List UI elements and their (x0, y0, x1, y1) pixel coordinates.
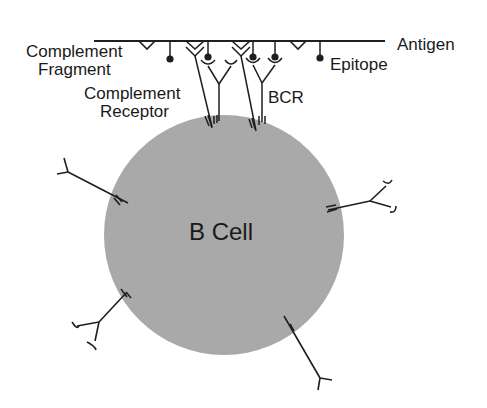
complement-fragment-label-line2: Fragment (38, 61, 111, 78)
epitope-label: Epitope (330, 56, 388, 73)
complement-receptor-label-line2: Receptor (100, 103, 169, 120)
complement-fragment-2 (290, 41, 306, 49)
complement-fragment-4 (232, 41, 250, 49)
b-cell-label: B Cell (189, 218, 253, 246)
complement-fragment-label-line1: Complement (26, 43, 122, 60)
bcr-label: BCR (268, 89, 304, 106)
receptor-lower-left (72, 289, 131, 350)
complement-fragment-3 (186, 41, 204, 49)
complement-fragment-1 (139, 41, 155, 49)
complement-receptor-label-line1: Complement (84, 85, 180, 102)
epitope-1 (166, 41, 173, 63)
b-cell-diagram: Antigen Epitope Complement Fragment Comp… (0, 0, 487, 408)
bcr-bound-1 (201, 60, 237, 121)
epitope-4 (271, 41, 278, 61)
receptor-lower-right (284, 316, 332, 390)
epitope-2 (204, 41, 211, 61)
antigen-label: Antigen (397, 36, 455, 53)
epitope-3 (249, 41, 256, 61)
epitope-5 (316, 41, 323, 62)
